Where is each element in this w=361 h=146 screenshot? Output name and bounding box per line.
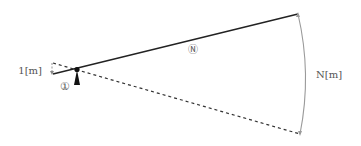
pivot-point-icon <box>74 67 79 72</box>
long-side-length-label: N[m] <box>316 69 342 80</box>
long-side-marker: Ⓝ <box>188 44 198 55</box>
diagram-canvas: 1[m] N[m] ① Ⓝ <box>0 0 361 146</box>
lever-arm-dashed <box>53 63 300 134</box>
fulcrum-wedge-icon <box>74 70 80 85</box>
fulcrum <box>74 67 80 85</box>
lever-diagram: 1[m] N[m] ① Ⓝ <box>0 0 361 146</box>
lever-arm-solid <box>53 14 298 74</box>
short-side-marker: ① <box>60 80 70 93</box>
short-side-length-label: 1[m] <box>18 65 42 76</box>
long-displacement-arc <box>296 12 306 136</box>
